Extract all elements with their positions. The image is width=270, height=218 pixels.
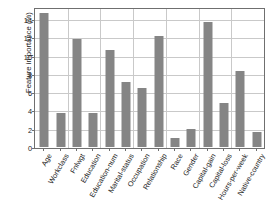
- y-tick-label: 12: [24, 34, 32, 43]
- x-tick-label-text: Age: [40, 152, 54, 168]
- bar: [56, 113, 65, 147]
- y-tick-mark: [32, 130, 35, 131]
- y-tick-label: 14: [24, 15, 32, 24]
- bar-slot: [118, 10, 134, 147]
- x-tick-mark: [109, 148, 110, 151]
- bar-slot: [151, 10, 167, 147]
- bar: [171, 138, 180, 147]
- y-tick-mark: [32, 38, 35, 39]
- bar-slot: [183, 10, 199, 147]
- bar: [220, 103, 229, 147]
- bar: [40, 13, 49, 147]
- x-tick-mark: [239, 148, 240, 151]
- bar: [187, 129, 196, 147]
- x-tick-mark: [158, 148, 159, 151]
- x-tick-mark: [141, 148, 142, 151]
- bar-slot: [52, 10, 68, 147]
- bar-series: [36, 10, 263, 147]
- bar-slot: [36, 10, 52, 147]
- bar-slot: [85, 10, 101, 147]
- y-tick-mark: [32, 57, 35, 58]
- x-tick-mark: [174, 148, 175, 151]
- x-axis-labels: AgeWorkclassFnlwgtEducationEducation-num…: [34, 152, 265, 216]
- bar-slot: [167, 10, 183, 147]
- bar: [203, 22, 212, 147]
- x-tick-mark: [76, 148, 77, 151]
- x-tick-mark: [92, 148, 93, 151]
- y-tick-mark: [32, 111, 35, 112]
- x-tick-mark: [43, 148, 44, 151]
- plot-area: 02468101214: [34, 8, 265, 149]
- y-tick-label: 10: [24, 52, 32, 61]
- bar: [89, 113, 98, 147]
- bar: [252, 132, 261, 147]
- bar: [121, 82, 130, 147]
- y-tick-mark: [32, 20, 35, 21]
- x-tick-mark: [125, 148, 126, 151]
- bar-slot: [200, 10, 216, 147]
- y-tick-mark: [32, 75, 35, 76]
- y-tick-mark: [32, 148, 35, 149]
- bar-slot: [69, 10, 85, 147]
- bar-slot: [232, 10, 248, 147]
- bar-slot: [101, 10, 117, 147]
- x-tick-mark: [256, 148, 257, 151]
- bar-chart-figure: Feature importance (%) 02468101214 AgeWo…: [0, 0, 270, 218]
- x-tick-mark: [207, 148, 208, 151]
- x-tick-mark: [223, 148, 224, 151]
- bar: [72, 39, 81, 147]
- bar: [236, 71, 245, 147]
- x-tick-mark: [190, 148, 191, 151]
- x-tick-mark: [60, 148, 61, 151]
- bar-slot: [249, 10, 265, 147]
- bar-slot: [134, 10, 150, 147]
- x-tick-label: Age: [40, 152, 54, 168]
- bar: [138, 88, 147, 147]
- bar-slot: [216, 10, 232, 147]
- y-tick-mark: [32, 93, 35, 94]
- bar: [105, 50, 114, 147]
- bar: [154, 36, 163, 147]
